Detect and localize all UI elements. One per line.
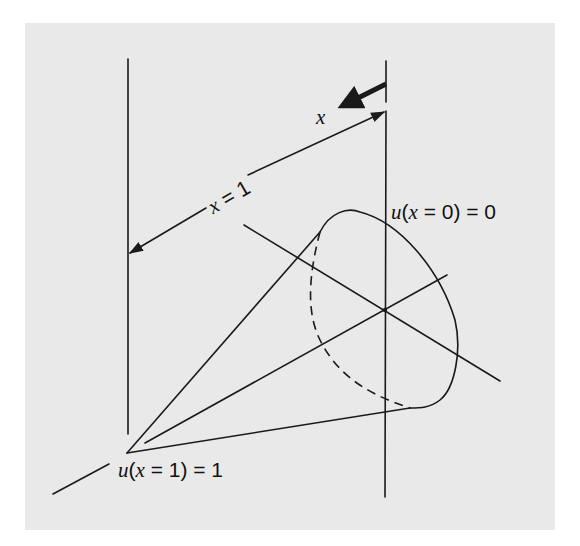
center-point-icon	[383, 308, 387, 312]
boundary-label-x1: u(x = 1) = 1	[118, 458, 223, 482]
direction-label: x	[315, 105, 326, 129]
cone-diagram: x x = 1 u(x = 0) = 0 u(x = 1) = 1	[0, 0, 580, 546]
figure-panel	[25, 23, 555, 530]
boundary-label-x0: u(x = 0) = 0	[391, 200, 496, 224]
right-vertical-line	[385, 111, 386, 497]
